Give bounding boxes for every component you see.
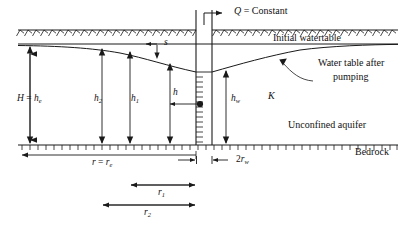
figure-canvas: Q = Constant Initial watertable Water ta… [0,0,409,229]
hydraulic-conductivity-label: K [268,91,275,101]
hw-subscript: w [236,97,240,104]
aquifer-thickness-label: H = he [17,94,42,104]
bedrock-line [18,145,398,150]
pumped-watertable-label-line2: pumping [333,72,369,82]
discharge-label: Q = Constant [234,6,287,16]
well-screen-hatching [196,77,203,142]
well-radius-pointer [170,101,203,107]
discharge-arrow [204,13,222,25]
dimension-line-2rw [178,156,228,164]
head-arrow-h [167,63,173,144]
radius-r2-label: r2 [144,208,151,218]
head-arrow-hw [223,70,229,144]
discharge-equals: = Constant [241,5,287,16]
radius-r1-label: r1 [158,188,165,198]
he-subscript: e [39,97,42,104]
rw-subscript: w [244,158,248,165]
drawdown-arrow-s [146,44,160,59]
r2-subscript: 2 [148,211,151,218]
head-h2-label: h2 [94,94,102,104]
initial-watertable-label: Initial watertable [273,33,341,43]
h2-subscript: 2 [99,97,102,104]
bedrock-label: Bedrock [355,147,389,157]
radius-re-label: r = re [92,158,112,168]
head-hw-label: hw [231,94,240,104]
pumped-watertable-label-line1: Water table after [318,58,384,68]
H-equals: = [24,93,34,103]
h1-subscript: 1 [136,97,139,104]
r1-subscript: 1 [162,191,165,198]
unconfined-aquifer-label: Unconfined aquifer [288,120,366,130]
H-symbol: H [17,93,24,103]
cross-section-drawing [0,0,409,229]
r-equals: = [96,157,106,167]
re-subscript: e [110,161,113,168]
head-h-label: h [173,88,178,98]
well-radius-label: 2rw [236,155,249,165]
head-h1-label: h1 [131,94,139,104]
well-casing [196,10,212,145]
pumped-watertable-leader [278,55,313,81]
drawdown-label: s [164,38,168,48]
